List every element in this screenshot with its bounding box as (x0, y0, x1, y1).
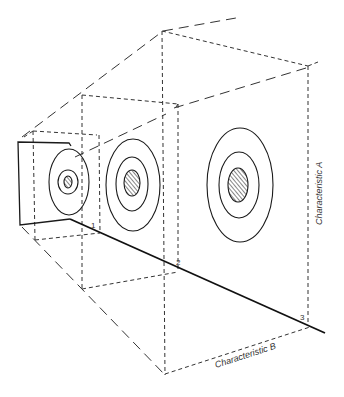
perspective-rays (22, 18, 306, 375)
contours-plane-3 (207, 128, 273, 242)
contours-plane-2 (106, 139, 160, 231)
perspective-diagram: 1 2 3 Characteristic A Characteristic B (0, 0, 344, 397)
marker-1: 1 (91, 221, 96, 230)
contours-plane-1 (49, 149, 89, 215)
label-characteristic-b: Characteristic B (214, 341, 278, 370)
plane-3 (162, 31, 318, 375)
marker-3: 3 (300, 313, 305, 322)
marker-2: 2 (176, 258, 181, 267)
axis-line (70, 219, 325, 333)
label-characteristic-a: Characteristic A (314, 162, 324, 225)
source-panel (18, 142, 71, 225)
